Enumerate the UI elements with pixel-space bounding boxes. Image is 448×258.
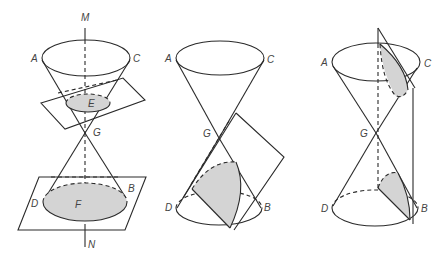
label-M: M (81, 12, 90, 23)
label-B: B (264, 202, 271, 213)
upper-cone-left-edge (176, 60, 219, 138)
label-D: D (165, 202, 172, 213)
label-C: C (424, 58, 432, 69)
label-F: F (75, 199, 82, 210)
panel-ellipse: A C G D B (164, 41, 284, 230)
label-G: G (93, 127, 101, 138)
label-A: A (30, 53, 38, 64)
upper-cone-right-edge (219, 60, 264, 138)
label-D: D (321, 203, 328, 214)
upper-cone-rim (176, 41, 264, 75)
label-C: C (133, 53, 141, 64)
upper-plane-hidden-edge (58, 80, 117, 93)
lower-cone-left-edge (333, 133, 376, 206)
label-B: B (128, 183, 135, 194)
cutting-plane-visible (234, 113, 284, 230)
label-N: N (88, 239, 96, 250)
label-D: D (31, 198, 38, 209)
upper-cone-rim (42, 40, 130, 76)
label-C: C (267, 54, 275, 65)
conic-sections-diagram: M A C E G D F B N A C G D B (0, 0, 448, 258)
panel-hyperbola: A C G D B (320, 28, 432, 226)
label-E: E (88, 98, 95, 109)
upper-cone-left-edge (333, 66, 376, 133)
panel-circle: M A C E G D F B N (18, 12, 146, 250)
label-G: G (360, 128, 368, 139)
label-G: G (203, 128, 211, 139)
label-B: B (421, 203, 428, 214)
label-A: A (320, 57, 328, 68)
label-A: A (164, 53, 172, 64)
